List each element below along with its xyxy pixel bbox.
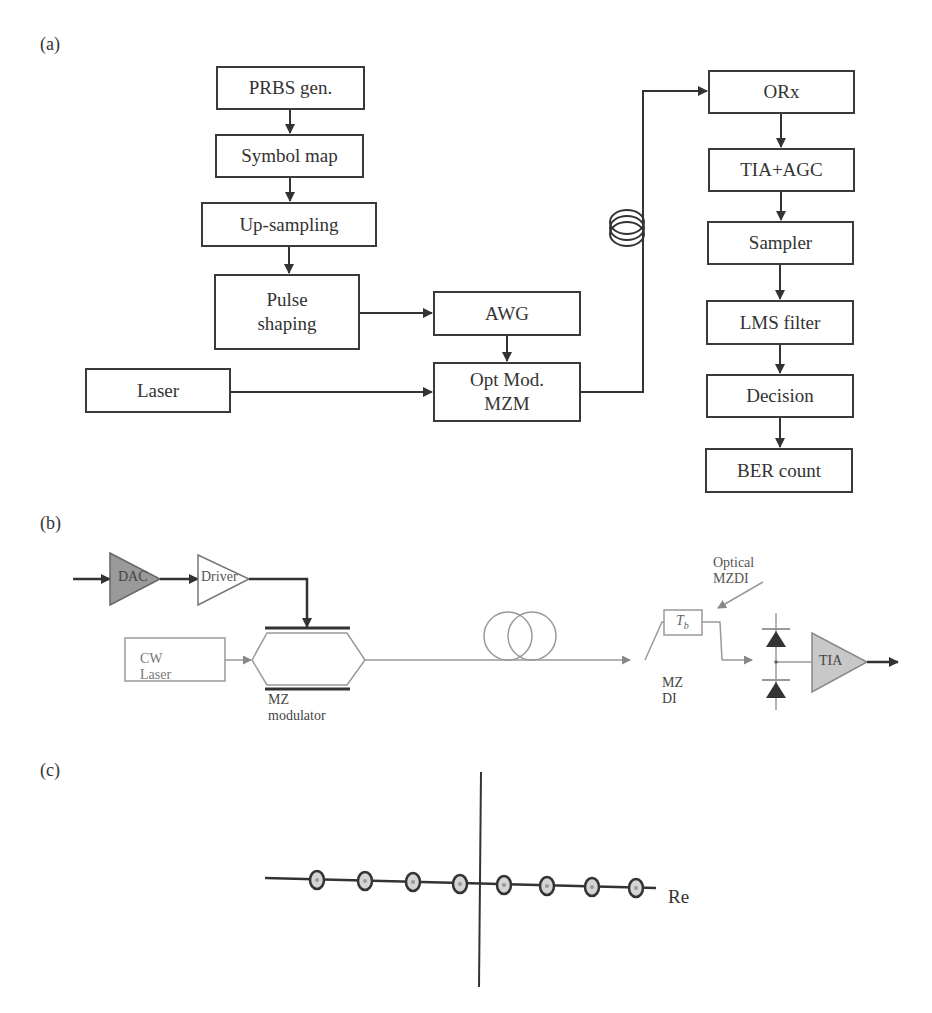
block-tia-agc: TIA+AGC: [708, 148, 855, 192]
panel-b-label: (b): [40, 513, 61, 534]
block-prbs-gen: PRBS gen.: [216, 66, 365, 110]
optical-mzdi-label: Optical MZDI: [713, 555, 754, 587]
block-awg: AWG: [433, 291, 581, 336]
real-axis: [265, 878, 656, 888]
panel-a-label: (a): [40, 34, 60, 55]
re-axis-label: Re: [668, 886, 689, 908]
photodiode-bottom-icon: [766, 682, 786, 698]
block-lms-filter: LMS filter: [706, 300, 854, 345]
dac-label: DAC: [118, 569, 148, 585]
panel-c-label: (c): [40, 760, 60, 781]
opt-mod-line2: MZM: [484, 392, 529, 416]
block-opt-mod-mzm: Opt Mod. MZM: [433, 362, 581, 422]
delay-tb-label: Tb: [676, 613, 689, 631]
block-laser: Laser: [85, 368, 231, 413]
cw-laser-label: CW Laser: [140, 651, 171, 683]
mz-modulator-label: MZ modulator: [268, 692, 326, 724]
fiber-coil-icon: [484, 612, 532, 660]
pulse-shaping-line1: Pulse: [266, 288, 307, 312]
block-up-sampling: Up-sampling: [201, 202, 377, 247]
constellation-points: [310, 871, 643, 897]
mz-modulator-icon: [252, 633, 365, 685]
photodiode-top-icon: [766, 631, 786, 647]
fiber-link: [581, 91, 707, 392]
imag-axis: [479, 772, 481, 987]
tia-label: TIA: [819, 653, 842, 669]
block-sampler: Sampler: [707, 221, 854, 265]
driver-label: Driver: [201, 569, 238, 585]
opt-mod-line1: Opt Mod.: [470, 368, 544, 392]
pulse-shaping-line2: shaping: [257, 312, 316, 336]
mz-di-label: MZ DI: [662, 675, 683, 707]
block-decision: Decision: [706, 374, 854, 418]
block-pulse-shaping: Pulse shaping: [214, 274, 360, 350]
block-ber-count: BER count: [705, 448, 853, 493]
block-orx: ORx: [708, 70, 855, 114]
fiber-coil-icon: [610, 210, 644, 246]
block-symbol-map: Symbol map: [215, 134, 364, 178]
